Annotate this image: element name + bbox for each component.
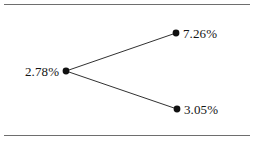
node-root <box>63 68 70 75</box>
node-label-root: 2.78% <box>25 65 59 78</box>
node-label-down: 3.05% <box>184 103 218 116</box>
bottom-rule <box>4 135 250 136</box>
edge-group <box>66 33 177 109</box>
edge-root-to-up <box>66 33 176 71</box>
node-down <box>174 106 181 113</box>
figure-panel: 2.78% 7.26% 3.05% <box>0 0 254 147</box>
edge-root-to-down <box>66 71 177 109</box>
node-group <box>63 30 181 113</box>
node-up <box>173 30 180 37</box>
node-label-up: 7.26% <box>183 27 217 40</box>
